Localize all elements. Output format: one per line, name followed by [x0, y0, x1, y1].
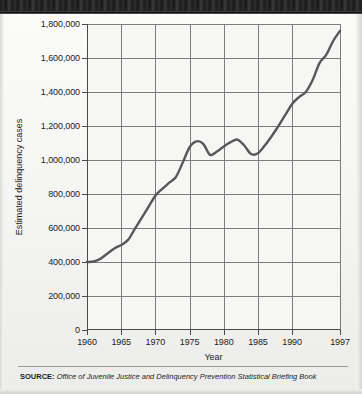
x-tick: [292, 330, 293, 335]
source-text: Office of Juvenile Justice and Delinquen…: [57, 372, 317, 381]
x-tick: [340, 330, 341, 335]
x-axis-title-label: Year: [204, 352, 222, 362]
x-tick-label: 1965: [111, 337, 131, 347]
x-tick-label: 1990: [282, 337, 302, 347]
data-series-line: [87, 24, 340, 330]
sheet-edge-left: [0, 14, 4, 394]
y-tick-label: 1,400,000: [41, 87, 80, 97]
source-divider: [18, 366, 348, 367]
source-note: SOURCE: Office of Juvenile Justice and D…: [20, 372, 352, 381]
y-tick-label: 200,000: [48, 291, 80, 301]
plot-area: 0200,000400,000600,000800,0001,000,0001,…: [87, 24, 340, 330]
chart-figure: Estimated delinquency cases 0200,000400,…: [0, 0, 362, 394]
x-tick: [121, 330, 122, 335]
y-tick-label: 800,000: [48, 189, 80, 199]
x-tick-label: 1985: [248, 337, 268, 347]
y-tick-label: 0: [75, 325, 80, 335]
y-axis-title: Estimated delinquency cases: [13, 24, 25, 330]
sheet-edge-right: [356, 14, 362, 394]
y-tick-label: 1,200,000: [41, 121, 80, 131]
y-axis-title-label: Estimated delinquency cases: [14, 119, 24, 236]
gridline-vertical: [340, 24, 341, 330]
sheet-edge-bottom: [0, 389, 362, 394]
x-axis-title: Year: [87, 352, 340, 362]
y-tick-label: 1,000,000: [41, 155, 80, 165]
x-tick-label: 1960: [77, 337, 97, 347]
y-tick-label: 1,800,000: [41, 19, 80, 29]
x-tick: [190, 330, 191, 335]
source-label: SOURCE:: [20, 372, 55, 381]
x-tick-label: 1975: [180, 337, 200, 347]
y-tick-label: 400,000: [48, 257, 80, 267]
x-tick: [258, 330, 259, 335]
page-banner-strip: [0, 0, 362, 11]
x-tick: [224, 330, 225, 335]
x-tick-label: 1980: [214, 337, 234, 347]
x-tick-label: 1970: [146, 337, 166, 347]
y-tick-label: 1,600,000: [41, 53, 80, 63]
y-tick-label: 600,000: [48, 223, 80, 233]
x-tick-label: 1997: [330, 337, 350, 347]
x-tick: [87, 330, 88, 335]
x-tick: [155, 330, 156, 335]
